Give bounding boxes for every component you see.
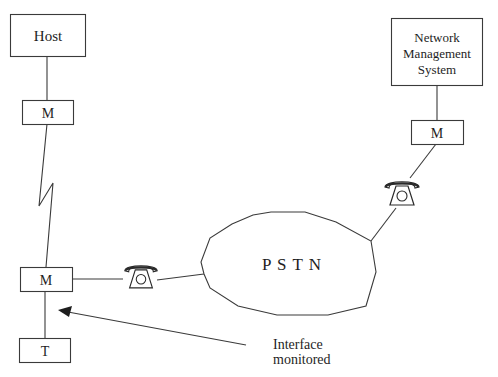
- lightning-link: [39, 124, 53, 267]
- terminal-modem-label: M: [40, 273, 53, 288]
- host-node: Host: [11, 15, 86, 57]
- nms-label-line-3: System: [418, 62, 456, 77]
- telephone-icon: [385, 182, 419, 205]
- pstn-node: P S T N: [201, 212, 376, 315]
- network-diagram: Host M M T Network Management System M P…: [0, 0, 498, 377]
- arrowhead-icon: [58, 306, 72, 317]
- nms-node: Network Management System: [392, 19, 483, 86]
- terminal-label: T: [41, 344, 50, 359]
- terminal-modem-node: M: [21, 268, 73, 292]
- host-modem-label: M: [42, 106, 55, 121]
- pstn-to-phone-line: [371, 208, 396, 241]
- annotation-arrow-line: [68, 312, 246, 345]
- host-label: Host: [34, 28, 63, 44]
- annotation-line-2: monitored: [273, 352, 331, 367]
- nms-label-line-1: Network: [414, 30, 460, 45]
- host-modem-node: M: [23, 101, 74, 125]
- nms-label-line-2: Management: [403, 46, 471, 61]
- nms-modem-label: M: [431, 126, 444, 141]
- pstn-label: P S T N: [262, 255, 322, 274]
- telephone-icon: [125, 266, 157, 288]
- annotation-line-1: Interface: [273, 337, 323, 352]
- phone-to-nms-modem-line: [410, 144, 436, 178]
- nms-modem-node: M: [412, 121, 464, 145]
- terminal-node: T: [20, 339, 71, 363]
- phone-to-pstn-line: [157, 274, 204, 280]
